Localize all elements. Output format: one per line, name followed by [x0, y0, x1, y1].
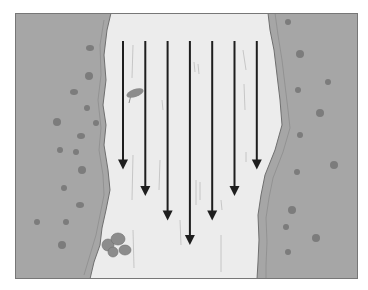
grass-tuft	[77, 133, 85, 139]
grass-tuft	[316, 109, 324, 117]
grass-tuft	[63, 219, 69, 225]
grass-tuft	[76, 202, 84, 208]
grass-tuft	[283, 224, 289, 230]
grass-tuft	[61, 185, 67, 191]
grass-tuft	[285, 249, 291, 255]
grass-tuft	[70, 89, 78, 95]
grass-tuft	[78, 166, 86, 174]
grass-tuft	[73, 149, 79, 155]
river-flow-diagram	[0, 0, 368, 290]
grass-tuft	[312, 234, 320, 242]
grass-tuft	[86, 45, 94, 51]
grass-tuft	[295, 87, 301, 93]
grass-tuft	[53, 118, 61, 126]
grass-tuft	[58, 241, 66, 249]
grass-tuft	[93, 120, 99, 126]
grass-tuft	[296, 50, 304, 58]
grass-tuft	[57, 147, 63, 153]
grass-tuft	[34, 219, 40, 225]
grass-tuft	[85, 72, 93, 80]
left-bank	[15, 13, 111, 279]
grass-tuft	[288, 206, 296, 214]
grass-tuft	[84, 105, 90, 111]
grass-tuft	[325, 79, 331, 85]
grass-tuft	[294, 169, 300, 175]
grass-tuft	[285, 19, 291, 25]
grass-tuft	[297, 132, 303, 138]
grass-tuft	[330, 161, 338, 169]
